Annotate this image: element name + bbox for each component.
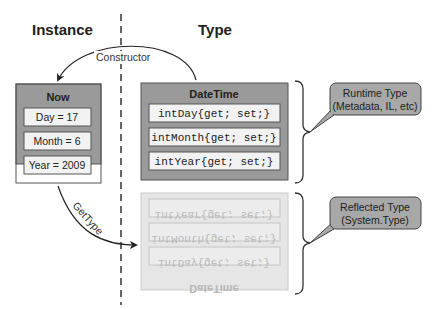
reflection-diagram: Instance Type Constructor Now Day = 17 M… [0,0,435,309]
instance-title: Now [46,91,70,103]
reflected-field-year: intYear{get; set;} [155,209,274,221]
instance-header: Instance [32,21,93,38]
instance-field-month: Month = 6 [34,135,81,147]
reflected-callout-line1: Reflected Type [340,201,410,213]
reflected-callout-line2: (System.Type) [341,214,409,226]
runtime-field-month: intMonth{get; set;} [151,132,276,144]
reflected-type-box: DateTime intYear{get; set;} intMonth{get… [141,193,288,295]
runtime-field-year: intYear{get; set;} [155,156,274,168]
runtime-brace [295,81,310,183]
runtime-type-title: DateTime [189,88,238,100]
instance-field-day: Day = 17 [36,111,78,123]
reflected-callout: Reflected Type (System.Type) [310,197,421,243]
reflected-field-day: intDay{get; set;} [158,257,270,269]
reflected-field-month: intMonth{get; set;} [151,233,276,245]
runtime-callout-line1: Runtime Type [343,87,408,99]
constructor-label: Constructor [96,51,151,63]
runtime-callout-line2: (Metadata, IL, etc) [332,100,417,112]
instance-field-year: Year = 2009 [29,159,86,171]
type-header: Type [198,21,232,38]
runtime-type-box: DateTime intDay{get; set;} intMonth{get;… [141,83,288,180]
runtime-callout: Runtime Type (Metadata, IL, etc) [310,83,421,132]
runtime-field-day: intDay{get; set;} [158,108,270,120]
instance-box: Now Day = 17 Month = 6 Year = 2009 [16,84,101,174]
reflected-type-title: DateTime [189,283,238,295]
reflected-brace [295,193,310,294]
